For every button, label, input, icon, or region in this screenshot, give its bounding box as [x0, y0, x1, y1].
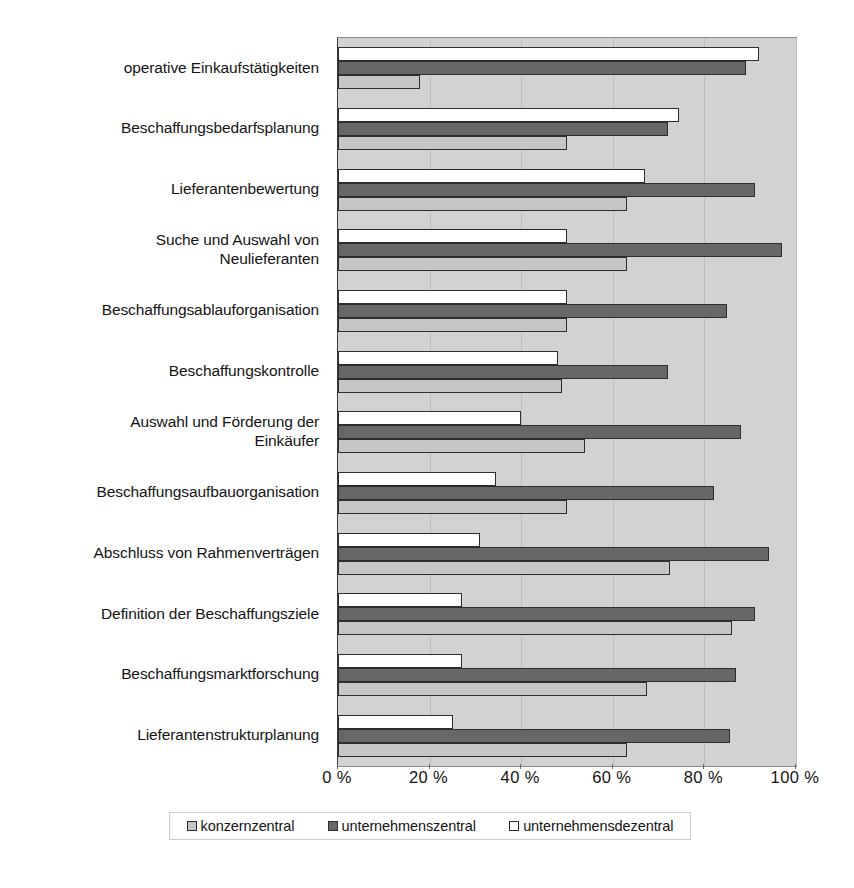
bar-unternehmensdezentral — [338, 47, 759, 61]
legend-entry[interactable]: unternehmenszentral — [328, 818, 476, 834]
legend-label: unternehmensdezentral — [523, 818, 673, 834]
category-label: Beschaffungsmarktforschung — [10, 644, 328, 705]
legend-entry[interactable]: konzernzentral — [187, 818, 295, 834]
bar-unternehmenszentral — [338, 122, 668, 136]
bar-unternehmenszentral — [338, 304, 727, 318]
bar-konzernzentral — [338, 439, 585, 453]
legend-entry[interactable]: unternehmensdezentral — [509, 818, 673, 834]
axis-tick-label: 0 % — [322, 768, 352, 787]
horizontal-bar-chart: operative EinkaufstätigkeitenBeschaffung… — [0, 0, 854, 888]
bar-unternehmenszentral — [338, 486, 714, 500]
bar-konzernzentral — [338, 136, 567, 150]
bar-group — [338, 463, 796, 524]
legend-swatch-icon — [509, 821, 519, 831]
category-label: Lieferantenbewertung — [10, 158, 328, 219]
bars-layer — [338, 38, 796, 766]
category-axis: operative EinkaufstätigkeitenBeschaffung… — [10, 37, 328, 765]
legend-swatch-icon — [328, 821, 338, 831]
bar-group — [338, 159, 796, 220]
bar-unternehmensdezentral — [338, 654, 462, 668]
bar-unternehmensdezentral — [338, 351, 558, 365]
bar-group — [338, 523, 796, 584]
bar-unternehmenszentral — [338, 61, 746, 75]
bar-unternehmensdezentral — [338, 229, 567, 243]
category-label: Beschaffungskontrolle — [10, 340, 328, 401]
bar-unternehmensdezentral — [338, 411, 521, 425]
bar-unternehmenszentral — [338, 243, 782, 257]
bar-group — [338, 645, 796, 706]
bar-konzernzentral — [338, 257, 627, 271]
bar-konzernzentral — [338, 743, 627, 757]
category-label: Auswahl und Förderung der Einkäufer — [10, 401, 328, 462]
axis-tick-label: 40 % — [501, 768, 540, 787]
axis-tick-label: 100 % — [771, 768, 820, 787]
category-label: Lieferantenstrukturplanung — [10, 704, 328, 765]
bar-unternehmensdezentral — [338, 108, 679, 122]
bar-unternehmenszentral — [338, 729, 730, 743]
bar-unternehmensdezentral — [338, 169, 645, 183]
axis-tick-label: 20 % — [409, 768, 448, 787]
bar-konzernzentral — [338, 318, 567, 332]
bar-konzernzentral — [338, 379, 562, 393]
axis-tick-label: 80 % — [684, 768, 723, 787]
plot-area — [337, 37, 797, 767]
axis-tick-label: 60 % — [592, 768, 631, 787]
bar-unternehmenszentral — [338, 425, 741, 439]
legend-label: unternehmenszentral — [342, 818, 476, 834]
bar-group — [338, 220, 796, 281]
bar-unternehmenszentral — [338, 547, 769, 561]
bar-group — [338, 99, 796, 160]
bar-unternehmenszentral — [338, 607, 755, 621]
bar-group — [338, 402, 796, 463]
bar-group — [338, 705, 796, 766]
bar-konzernzentral — [338, 682, 647, 696]
bar-konzernzentral — [338, 75, 420, 89]
bar-unternehmensdezentral — [338, 290, 567, 304]
legend-label: konzernzentral — [201, 818, 295, 834]
category-label: Beschaffungsaufbauorganisation — [10, 462, 328, 523]
bar-unternehmenszentral — [338, 668, 736, 682]
chart-legend: konzernzentralunternehmenszentralunterne… — [169, 812, 691, 840]
bar-group — [338, 341, 796, 402]
bar-konzernzentral — [338, 197, 627, 211]
category-label: operative Einkaufstätigkeiten — [10, 37, 328, 98]
category-label: Beschaffungsbedarfsplanung — [10, 98, 328, 159]
bar-unternehmenszentral — [338, 183, 755, 197]
bar-konzernzentral — [338, 500, 567, 514]
category-label: Abschluss von Rahmenverträgen — [10, 522, 328, 583]
value-axis: 0 %20 %40 %60 %80 %100 % — [337, 768, 797, 794]
bar-konzernzentral — [338, 621, 732, 635]
bar-konzernzentral — [338, 561, 670, 575]
bar-group — [338, 584, 796, 645]
bar-unternehmenszentral — [338, 365, 668, 379]
category-label: Suche und Auswahl von Neulieferanten — [10, 219, 328, 280]
bar-unternehmensdezentral — [338, 593, 462, 607]
legend-swatch-icon — [187, 821, 197, 831]
bar-unternehmensdezentral — [338, 715, 453, 729]
category-label: Definition der Beschaffungsziele — [10, 583, 328, 644]
bar-group — [338, 281, 796, 342]
bar-unternehmensdezentral — [338, 533, 480, 547]
category-label: Beschaffungsablauforganisation — [10, 280, 328, 341]
gridline — [796, 38, 797, 766]
bar-group — [338, 38, 796, 99]
bar-unternehmensdezentral — [338, 472, 496, 486]
